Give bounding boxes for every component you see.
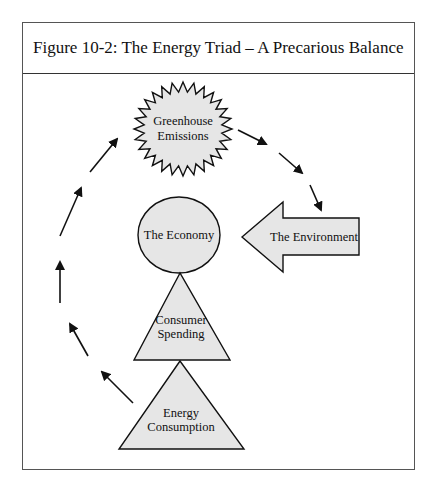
triangle-shape [119, 361, 244, 449]
greenhouse-emissions-node: Greenhouse Emissions [134, 82, 232, 176]
greenhouse-label-line2: Emissions [157, 129, 209, 143]
economy-node: The Economy [138, 197, 220, 273]
consumption-label-line1: Energy [163, 406, 200, 420]
flow-consumption-to-greenhouse [60, 139, 133, 403]
arrow-icon [60, 188, 81, 236]
economy-label: The Economy [144, 228, 215, 242]
arrow-icon [310, 185, 321, 210]
environment-node: The Environment [242, 202, 359, 272]
arrow-icon [102, 372, 133, 403]
greenhouse-label-line1: Greenhouse [153, 114, 213, 128]
arrow-icon [279, 153, 302, 173]
energy-consumption-node: Energy Consumption [119, 361, 244, 449]
arrow-icon [70, 324, 88, 356]
environment-label: The Environment [270, 230, 358, 244]
arrow-icon [238, 130, 266, 144]
spending-label-line2: Spending [157, 327, 205, 341]
energy-triad-diagram: Greenhouse Emissions The Environment The… [0, 0, 438, 492]
arrow-icon [90, 139, 117, 172]
consumer-spending-node: Consumer Spending [134, 273, 230, 360]
flow-greenhouse-to-environment [238, 130, 321, 210]
consumption-label-line2: Consumption [147, 420, 215, 434]
spending-label-line1: Consumer [155, 313, 207, 327]
